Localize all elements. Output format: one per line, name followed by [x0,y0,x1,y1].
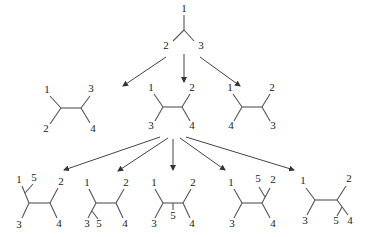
leaf-label: 2 [43,122,49,134]
tree-three-taxa: 1 2 3 [163,2,204,51]
leaf-label: 2 [189,81,195,93]
leaf-label: 1 [16,173,22,185]
tree-four-taxa-1: 1 3 2 4 [43,82,96,134]
leaf-label: 1 [227,81,233,93]
leaf-label: 2 [123,176,129,188]
tree-five-taxa-1: 1 5 2 3 4 [16,171,64,230]
arrow-icon [180,138,225,170]
tree-five-taxa-3: 1 2 3 5 4 [151,176,196,229]
leaf-label: 2 [346,172,352,184]
tree-five-taxa-2: 1 2 3 5 4 [84,176,129,229]
leaf-label: 2 [269,81,275,93]
tree-addition-diagram: 1 2 3 1 3 2 4 1 2 3 4 1 [0,0,367,237]
leaf-label: 4 [270,217,276,229]
leaf-label: 5 [31,171,37,183]
leaf-label: 3 [88,82,94,94]
leaf-label: 4 [347,214,353,226]
leaf-label: 1 [181,2,187,14]
leaf-label: 4 [189,119,195,131]
leaf-label: 3 [16,218,22,230]
leaf-label: 2 [58,175,64,187]
tree-five-taxa-4: 1 5 2 3 4 [228,172,276,229]
leaf-label: 2 [163,39,169,51]
leaf-label: 2 [190,176,196,188]
arrows-level-1 [123,54,240,86]
leaf-label: 3 [302,214,308,226]
leaf-label: 3 [270,119,276,131]
leaf-label: 1 [151,176,157,188]
leaf-label: 4 [228,119,234,131]
leaf-label: 5 [96,217,102,229]
leaf-label: 5 [255,172,261,184]
leaf-label: 3 [198,39,204,51]
leaf-label: 3 [151,217,157,229]
leaf-label: 1 [84,176,90,188]
tree-five-taxa-5: 1 2 3 5 4 [300,172,353,226]
leaf-label: 2 [270,173,276,185]
leaf-label: 1 [228,176,234,188]
leaf-label: 4 [189,217,195,229]
arrow-icon [200,57,240,86]
leaf-label: 4 [90,122,96,134]
arrow-icon [64,137,160,170]
tree-four-taxa-3: 1 2 4 3 [227,81,276,131]
arrows-level-2 [64,137,294,171]
arrow-icon [123,57,166,86]
leaf-label: 3 [229,217,235,229]
leaf-label: 3 [84,217,90,229]
leaf-label: 4 [122,217,128,229]
leaf-label: 3 [148,119,154,131]
tree-four-taxa-2: 1 2 3 4 [148,81,195,131]
leaf-label: 4 [56,217,62,229]
leaf-label: 1 [148,81,154,93]
leaf-label: 1 [300,174,306,186]
leaf-label: 1 [44,83,50,95]
leaf-label: 5 [170,209,176,221]
leaf-label: 5 [333,214,339,226]
